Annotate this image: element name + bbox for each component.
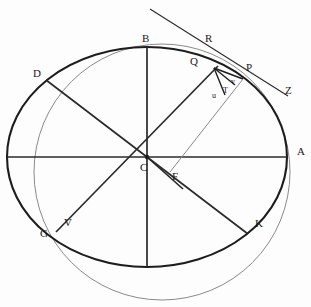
point-label-T: T (223, 87, 228, 95)
tangent-line-R-Q-Z (150, 9, 288, 96)
point-label-Z: Z (285, 85, 292, 96)
diameter-G-Q (56, 66, 218, 232)
point-label-V: V (64, 217, 72, 228)
point-label-G: G (40, 228, 48, 239)
point-label-D: D (33, 68, 41, 79)
centre-point-C (145, 155, 149, 159)
auxiliary-circle (34, 44, 290, 300)
point-label-C: C (140, 162, 147, 173)
point-label-F: F (172, 171, 178, 182)
point-label-B: B (142, 33, 149, 44)
point-label-R: R (205, 33, 212, 44)
point-label-K: K (255, 218, 263, 229)
point-label-Q: Q (190, 56, 198, 67)
geometry-figure (0, 0, 311, 307)
point-label-A: A (297, 146, 305, 157)
point-label-v: v (231, 78, 235, 86)
line-F-to-P (170, 79, 243, 172)
point-label-P: P (246, 62, 252, 73)
point-label-u: u (212, 92, 216, 100)
